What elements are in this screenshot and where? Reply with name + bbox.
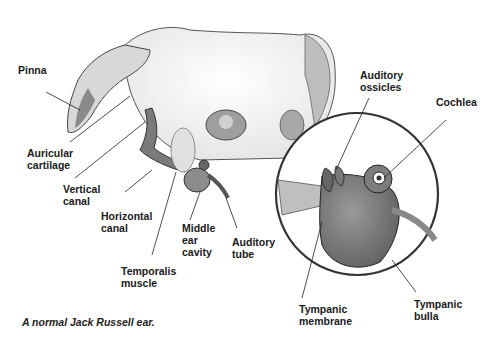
label-auditory-tube: Auditory tube [232, 236, 275, 260]
label-middle-ear-cavity: Middle ear cavity [182, 222, 215, 258]
label-tympanic-membrane: Tympanic membrane [299, 303, 352, 327]
label-horizontal-canal: Horizontal canal [101, 210, 152, 234]
label-auricular-cartilage: Auricular cartilage [27, 147, 73, 171]
label-temporalis-muscle: Temporalis muscle [121, 265, 176, 289]
label-auditory-ossicles: Auditory ossicles [360, 69, 403, 93]
label-tympanic-bulla: Tympanic bulla [414, 298, 462, 322]
inset-magnified-view [276, 113, 438, 275]
label-cochlea: Cochlea [436, 96, 477, 108]
ear-anatomy-illustration [0, 0, 494, 347]
label-pinna: Pinna [18, 64, 47, 76]
label-vertical-canal: Vertical canal [63, 183, 100, 207]
figure-caption: A normal Jack Russell ear. [22, 316, 155, 328]
